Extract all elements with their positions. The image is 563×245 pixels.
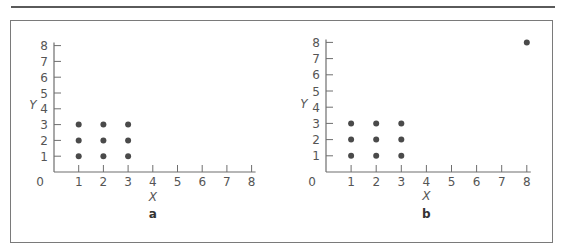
- data-point: [348, 137, 354, 143]
- data-point: [524, 39, 530, 45]
- x-tick-label: 3: [124, 175, 132, 189]
- y-tick-label: 8: [312, 36, 320, 50]
- data-point: [373, 153, 379, 159]
- data-point: [125, 122, 131, 128]
- x-tick-label: 5: [448, 175, 456, 189]
- y-tick-label: 5: [40, 87, 48, 101]
- scatter-panel-a: 12345678123456780XYa: [29, 39, 255, 221]
- y-tick-label: 3: [40, 118, 48, 132]
- data-point: [100, 122, 106, 128]
- x-tick-label: 2: [100, 175, 108, 189]
- y-tick-label: 1: [40, 150, 48, 164]
- y-tick-label: 5: [312, 85, 320, 99]
- panel-label: a: [149, 207, 157, 221]
- y-tick-label: 1: [312, 149, 320, 163]
- x-tick-label: 7: [498, 175, 506, 189]
- x-tick-label: 6: [198, 175, 206, 189]
- y-tick-label: 7: [40, 55, 48, 69]
- data-point: [398, 120, 404, 126]
- x-tick-label: 6: [473, 175, 481, 189]
- scatter-charts: 12345678123456780XYa 12345678123456780XY…: [0, 0, 563, 245]
- data-point: [100, 153, 106, 159]
- x-tick-label: 4: [149, 175, 157, 189]
- data-point: [398, 153, 404, 159]
- data-point: [125, 137, 131, 143]
- x-axis-title: X: [148, 190, 158, 204]
- x-tick-label: 2: [372, 175, 380, 189]
- data-point: [76, 153, 82, 159]
- data-point: [76, 122, 82, 128]
- x-tick-label: 5: [174, 175, 182, 189]
- x-tick-label: 1: [347, 175, 355, 189]
- y-tick-label: 7: [312, 52, 320, 66]
- y-axis-title: Y: [300, 97, 309, 111]
- scatter-panel-b: 12345678123456780XYb: [300, 36, 530, 221]
- y-tick-label: 4: [40, 102, 48, 116]
- data-point: [100, 137, 106, 143]
- data-point: [373, 120, 379, 126]
- x-tick-label: 1: [75, 175, 83, 189]
- data-point: [398, 137, 404, 143]
- x-tick-label: 7: [223, 175, 231, 189]
- y-tick-label: 4: [312, 101, 320, 115]
- x-tick-label: 8: [523, 175, 531, 189]
- data-point: [373, 137, 379, 143]
- origin-label: 0: [308, 175, 316, 189]
- x-axis-title: X: [421, 189, 431, 203]
- y-tick-label: 3: [312, 117, 320, 131]
- panel-label: b: [422, 207, 431, 221]
- data-point: [125, 153, 131, 159]
- x-tick-label: 4: [423, 175, 431, 189]
- y-tick-label: 8: [40, 39, 48, 53]
- y-axis-title: Y: [29, 98, 38, 112]
- data-point: [348, 153, 354, 159]
- y-tick-label: 2: [40, 134, 48, 148]
- y-tick-label: 2: [312, 133, 320, 147]
- y-tick-label: 6: [40, 71, 48, 85]
- y-tick-label: 6: [312, 68, 320, 82]
- origin-label: 0: [36, 175, 44, 189]
- data-point: [76, 137, 82, 143]
- x-tick-label: 8: [248, 175, 256, 189]
- x-tick-label: 3: [397, 175, 405, 189]
- data-point: [348, 120, 354, 126]
